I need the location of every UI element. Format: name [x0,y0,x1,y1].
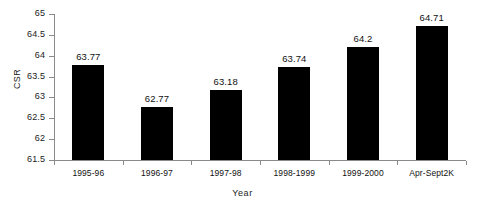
bar-value-label: 64.2 [333,33,393,44]
x-tick-mark [54,161,55,165]
bar [141,107,173,160]
x-category-label: Apr-Sept2K [392,168,472,178]
bar [347,47,379,160]
y-tick-label: 65 [35,8,45,18]
y-tick-label: 61.5 [27,154,45,164]
y-tick-label: 62.5 [27,112,45,122]
bar [210,90,242,160]
bar-value-label: 63.18 [196,76,256,87]
y-tick-label: 64.5 [27,29,45,39]
bar [278,67,310,160]
bar [416,26,448,160]
y-tick-mark [49,97,54,98]
x-tick-mark [191,161,192,165]
y-axis-line [54,14,55,161]
bar-value-label: 63.74 [264,53,324,64]
x-tick-mark [466,161,467,165]
y-tick-mark [49,118,54,119]
y-tick-mark [49,35,54,36]
y-tick-mark [49,56,54,57]
bar-value-label: 63.77 [58,51,118,62]
bar-value-label: 64.71 [402,12,462,23]
y-tick-mark [49,139,54,140]
bar-value-label: 62.77 [127,93,187,104]
x-tick-mark [123,161,124,165]
y-tick-label: 62 [35,133,45,143]
x-axis-title: Year [0,188,485,198]
bar [72,65,104,160]
y-tick-label: 63 [35,91,45,101]
y-tick-label: 64 [35,50,45,60]
x-tick-mark [260,161,261,165]
x-tick-mark [397,161,398,165]
bar-chart: CSR 6564.56463.56362.56261.5 63.771995-9… [0,0,485,207]
x-tick-mark [329,161,330,165]
y-tick-mark [49,77,54,78]
y-tick-label: 63.5 [27,71,45,81]
y-tick-mark [49,14,54,15]
